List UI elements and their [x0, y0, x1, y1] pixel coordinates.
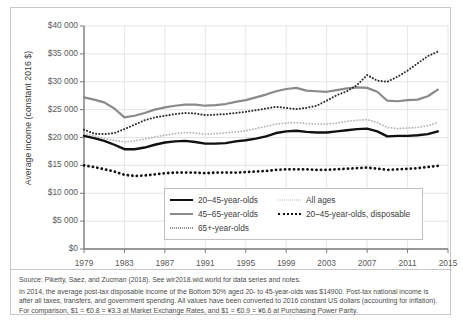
legend-label: 20–45-year-olds, disposable	[306, 209, 410, 219]
legend-entry-65plus: 65+-year-olds	[170, 223, 278, 233]
source-note: Source: Piketty, Saez, and Zucman (2018)…	[19, 275, 444, 284]
x-tick-label: 1995	[236, 258, 255, 268]
x-tick-label: 1983	[115, 258, 134, 268]
chart-legend: 20–45-year-olds All ages 45–65-year-olds…	[164, 188, 423, 240]
fine-dotted-line-icon	[170, 223, 193, 233]
x-tick-label: 2015	[439, 258, 458, 268]
series-line-2	[84, 52, 438, 135]
figure-notes: Source: Piketty, Saez, and Zucman (2018)…	[11, 269, 452, 315]
solid-gray-line-icon	[170, 209, 193, 219]
legend-label: All ages	[306, 195, 336, 205]
x-tick-label: 2007	[358, 258, 377, 268]
solid-black-line-icon	[170, 195, 193, 205]
legend-entry-45-65: 45–65-year-olds	[170, 209, 278, 219]
x-tick-label: 1979	[75, 258, 94, 268]
x-tick-label: 1999	[277, 258, 296, 268]
legend-entry-20-45: 20–45-year-olds	[170, 195, 278, 205]
legend-row: 20–45-year-olds All ages	[170, 193, 417, 207]
series-line-0	[84, 129, 438, 150]
legend-entry-all-ages: All ages	[278, 195, 336, 205]
x-tick-label: 2011	[399, 258, 417, 268]
legend-row: 65+-year-olds	[170, 221, 417, 235]
body-note: In 2014, the average post-tax disposable…	[19, 287, 444, 315]
series-line-1	[84, 87, 438, 117]
legend-label: 20–45-year-olds	[198, 195, 258, 205]
bold-dotted-line-icon	[278, 209, 301, 219]
x-tick-label: 1991	[196, 258, 215, 268]
x-tick-label: 1987	[156, 258, 175, 268]
light-dotted-line-icon	[278, 195, 301, 205]
series-line-4	[84, 165, 438, 176]
x-tick-label: 2003	[317, 258, 336, 268]
legend-entry-20-45-disposable: 20–45-year-olds, disposable	[278, 209, 410, 219]
legend-label: 45–65-year-olds	[198, 209, 258, 219]
legend-row: 45–65-year-olds 20–45-year-olds, disposa…	[170, 207, 417, 221]
legend-label: 65+-year-olds	[198, 223, 249, 233]
figure-frame: Average income (constant 2016 $) $40 000…	[10, 7, 451, 315]
